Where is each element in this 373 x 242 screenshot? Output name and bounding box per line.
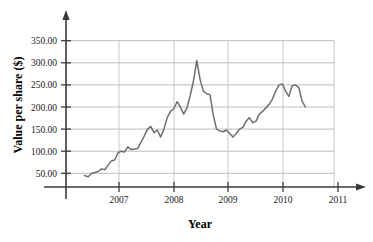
x-tick-label: 2010 xyxy=(274,195,293,205)
y-tick-labels: 350.00 300.00 250.00 200.00 150.00 100.0… xyxy=(31,36,57,179)
gridlines-horizontal xyxy=(66,41,334,174)
y-tick-label: 350.00 xyxy=(31,36,57,46)
x-tick-label: 2009 xyxy=(219,195,238,205)
y-tick-label: 50.00 xyxy=(36,169,58,179)
y-axis-title: Value per share ($) xyxy=(11,57,25,154)
x-tick-label: 2008 xyxy=(165,195,184,205)
y-tick-label: 100.00 xyxy=(31,147,57,157)
x-tick-label: 2011 xyxy=(329,195,348,205)
x-axis xyxy=(44,183,366,190)
chart-container: 350.00 300.00 250.00 200.00 150.00 100.0… xyxy=(0,0,373,242)
data-series-line xyxy=(84,61,305,177)
y-tick-label: 200.00 xyxy=(31,103,57,113)
x-axis-title: Year xyxy=(188,217,213,231)
line-chart: 350.00 300.00 250.00 200.00 150.00 100.0… xyxy=(0,0,373,242)
x-tick-labels: 2007 2008 2009 2010 2011 xyxy=(110,195,348,205)
y-tick-label: 300.00 xyxy=(31,58,57,68)
y-tick-label: 150.00 xyxy=(31,125,57,135)
y-axis-arrow xyxy=(62,10,69,20)
y-axis xyxy=(62,10,69,199)
x-tick-label: 2007 xyxy=(110,195,129,205)
y-tick-label: 250.00 xyxy=(31,80,57,90)
x-axis-arrow xyxy=(356,183,366,190)
